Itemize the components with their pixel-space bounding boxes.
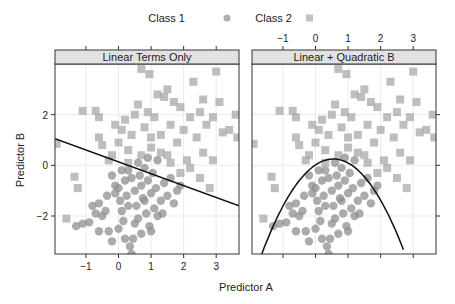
legend-circle-icon xyxy=(224,15,231,22)
legend-label-class-2: Class 2 xyxy=(255,12,292,24)
legend-square-icon xyxy=(306,15,313,22)
panel-linear-quadratic-b: Linear + Quadratic B−10123 xyxy=(250,33,440,258)
chart-canvas: Class 1 Class 2 Linear Terms Only−10123−… xyxy=(0,0,455,304)
y-tick-label: 0 xyxy=(42,160,48,171)
y-tick-label: 2 xyxy=(42,110,48,121)
panel-linear-terms-only: Linear Terms Only−10123−202 xyxy=(37,46,242,272)
x-axis-label: Predictor A xyxy=(219,281,273,293)
legend-label-class-1: Class 1 xyxy=(148,12,185,24)
x-tick-label: 0 xyxy=(116,261,122,272)
panel-title: Linear + Quadratic B xyxy=(293,51,394,63)
x-tick-label-top: 2 xyxy=(378,33,384,44)
panel-title: Linear Terms Only xyxy=(102,51,192,63)
x-tick-label-top: −1 xyxy=(277,33,289,44)
y-axis-label: Predictor B xyxy=(14,133,26,187)
x-tick-label-top: 0 xyxy=(313,33,319,44)
legend: Class 1 Class 2 xyxy=(148,12,313,24)
x-tick-label: 1 xyxy=(148,261,154,272)
x-tick-label: 3 xyxy=(213,261,219,272)
decision-boundary xyxy=(55,139,239,206)
x-tick-label: 2 xyxy=(181,261,187,272)
scatter-points xyxy=(53,65,242,258)
x-tick-label-top: 3 xyxy=(410,33,416,44)
y-tick-label: −2 xyxy=(37,211,49,222)
x-tick-label: −1 xyxy=(80,261,92,272)
x-tick-label-top: 1 xyxy=(345,33,351,44)
